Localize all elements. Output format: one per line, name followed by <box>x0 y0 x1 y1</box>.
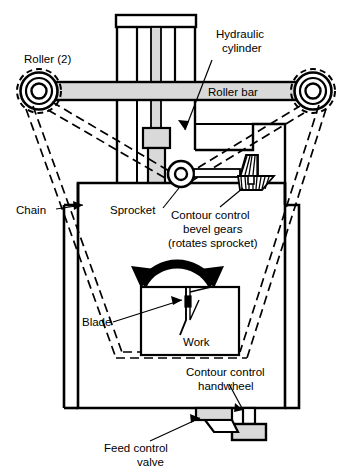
cylinder-rod-mid <box>151 100 161 128</box>
cylinder-head-cap <box>116 15 196 27</box>
roller-bar <box>37 82 311 100</box>
bevel-gear-shaft <box>194 169 240 177</box>
label-handwheel-line1: Contour control <box>186 366 265 378</box>
label-bevel-gears-line2: bevel gears <box>183 223 243 235</box>
label-work: Work <box>183 336 210 348</box>
label-feed-valve-line1: Feed control <box>104 442 168 454</box>
cylinder-piston-block <box>143 128 170 148</box>
label-roller: Roller (2) <box>24 53 71 65</box>
label-bevel-gears-line3: (rotates sprocket) <box>168 237 258 249</box>
label-blade: Blade <box>82 316 111 328</box>
label-feed-valve-line2: valve <box>137 456 164 468</box>
roller-left-hub <box>32 84 47 99</box>
label-handwheel-line2: handwheel <box>198 380 254 392</box>
label-bevel-gears-line1: Contour control <box>171 209 250 221</box>
label-hydraulic-cylinder-line1: Hydraulic <box>216 28 264 40</box>
handwheel-stem <box>243 408 255 424</box>
roller-right-hub <box>306 84 321 99</box>
cylinder-rod-upper <box>151 27 161 82</box>
blade <box>185 296 191 307</box>
label-hydraulic-cylinder-line2: cylinder <box>222 42 262 54</box>
label-sprocket: Sprocket <box>110 204 156 216</box>
sprocket-hub <box>175 168 187 180</box>
sprocket <box>168 161 194 187</box>
contour-bandsaw-diagram: Roller (2) Hydraulic cylinder Roller bar… <box>0 0 348 474</box>
bevel-gear-pedestal <box>248 176 254 184</box>
label-chain: Chain <box>16 204 46 216</box>
valve-body <box>196 408 232 420</box>
label-roller-bar: Roller bar <box>208 86 258 98</box>
diagram-canvas: Roller (2) Hydraulic cylinder Roller bar… <box>0 0 348 474</box>
roller-bar-body <box>37 82 311 100</box>
blade-body <box>185 296 191 307</box>
